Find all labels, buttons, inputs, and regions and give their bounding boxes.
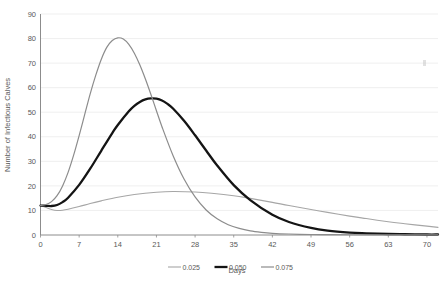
y-tick-label: 30 — [28, 157, 36, 166]
legend-label-0-075[interactable]: 0.075 — [276, 264, 294, 271]
series-line-0-025 — [41, 192, 439, 228]
x-tick-label: 49 — [307, 240, 315, 249]
y-tick-label: 20 — [28, 182, 36, 191]
y-tick-label: 90 — [28, 10, 36, 19]
series-group — [41, 38, 439, 235]
x-tick-label: 0 — [38, 240, 42, 249]
x-tick-labels: 07142128354249566370 — [38, 235, 431, 249]
y-tick-label: 0 — [32, 231, 36, 240]
y-tick-label: 60 — [28, 83, 36, 92]
y-tick-label: 10 — [28, 206, 36, 215]
chart-container: 0102030405060708090 07142128354249566370… — [0, 0, 444, 281]
y-tick-label: 50 — [28, 108, 36, 117]
x-tick-label: 21 — [152, 240, 160, 249]
x-tick-label: 70 — [423, 240, 431, 249]
x-tick-label: 35 — [230, 240, 238, 249]
axis-lines — [41, 14, 439, 235]
x-tick-label: 7 — [77, 240, 81, 249]
series-line-0-050 — [41, 98, 439, 234]
stray-mark-icon — [423, 60, 426, 66]
x-tick-label: 28 — [191, 240, 199, 249]
y-axis-title: Number of Infectious Calves — [3, 78, 12, 172]
x-tick-label: 14 — [114, 240, 122, 249]
y-tick-label: 40 — [28, 132, 36, 141]
legend-label-0-025[interactable]: 0.025 — [183, 264, 201, 271]
series-line-0-075 — [41, 38, 439, 235]
gridlines — [41, 14, 439, 210]
x-tick-label: 42 — [268, 240, 276, 249]
y-tick-label: 80 — [28, 34, 36, 43]
legend: 0.0250.0500.075 — [168, 264, 293, 271]
line-chart: 0102030405060708090 07142128354249566370… — [0, 0, 444, 281]
x-tick-label: 63 — [384, 240, 392, 249]
x-tick-label: 56 — [345, 240, 353, 249]
y-tick-labels: 0102030405060708090 — [28, 10, 36, 240]
y-tick-label: 70 — [28, 59, 36, 68]
legend-label-0-050[interactable]: 0.050 — [229, 264, 247, 271]
